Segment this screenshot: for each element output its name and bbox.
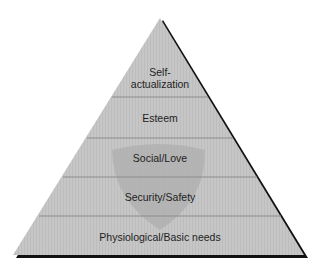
level-social-love: Social/Love <box>0 152 320 164</box>
level-security-safety: Security/Safety <box>0 191 320 203</box>
pyramid-diagram: Self- actualization Esteem Social/Love S… <box>0 0 320 271</box>
level-esteem: Esteem <box>0 112 320 124</box>
level-physiological: Physiological/Basic needs <box>0 231 320 243</box>
level-self-actualization: Self- actualization <box>0 66 320 90</box>
